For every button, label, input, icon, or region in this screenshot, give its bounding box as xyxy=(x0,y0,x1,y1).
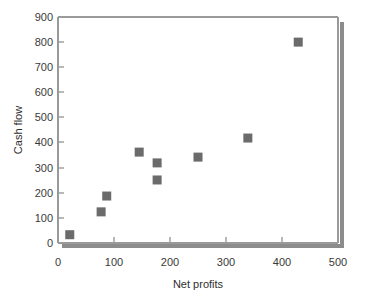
data-point xyxy=(153,175,162,184)
scatter-chart: 0 100 200 300 400 500 600 700 800 900 0 … xyxy=(0,0,366,299)
frame-shadow-right xyxy=(340,22,344,247)
chart-background xyxy=(0,0,366,299)
data-point xyxy=(153,158,162,167)
frame-shadow-bottom xyxy=(62,244,344,248)
data-point xyxy=(97,207,106,216)
y-tick-label-200: 200 xyxy=(35,187,53,199)
chart-canvas: 0 100 200 300 400 500 600 700 800 900 0 … xyxy=(0,0,366,299)
x-tick-label-500: 500 xyxy=(329,256,347,268)
x-tick-label-0: 0 xyxy=(55,256,61,268)
y-tick-label-800: 800 xyxy=(35,36,53,48)
x-tick-label-300: 300 xyxy=(217,256,235,268)
y-tick-label-700: 700 xyxy=(35,61,53,73)
y-tick-label-400: 400 xyxy=(35,136,53,148)
x-tick-label-400: 400 xyxy=(273,256,291,268)
y-tick-label-600: 600 xyxy=(35,86,53,98)
x-tick-label-100: 100 xyxy=(105,256,123,268)
data-point xyxy=(243,134,252,143)
y-tick-label-100: 100 xyxy=(35,212,53,224)
data-point xyxy=(194,153,203,162)
data-point xyxy=(102,192,111,201)
data-point xyxy=(135,148,144,157)
y-tick-label-0: 0 xyxy=(47,237,53,249)
x-tick-label-200: 200 xyxy=(161,256,179,268)
y-tick-label-900: 900 xyxy=(35,11,53,23)
y-axis-title: Cash flow xyxy=(12,106,24,154)
y-tick-label-300: 300 xyxy=(35,162,53,174)
data-point xyxy=(65,230,74,239)
data-point xyxy=(294,38,303,47)
x-axis-title: Net profits xyxy=(173,278,224,290)
y-tick-label-500: 500 xyxy=(35,111,53,123)
